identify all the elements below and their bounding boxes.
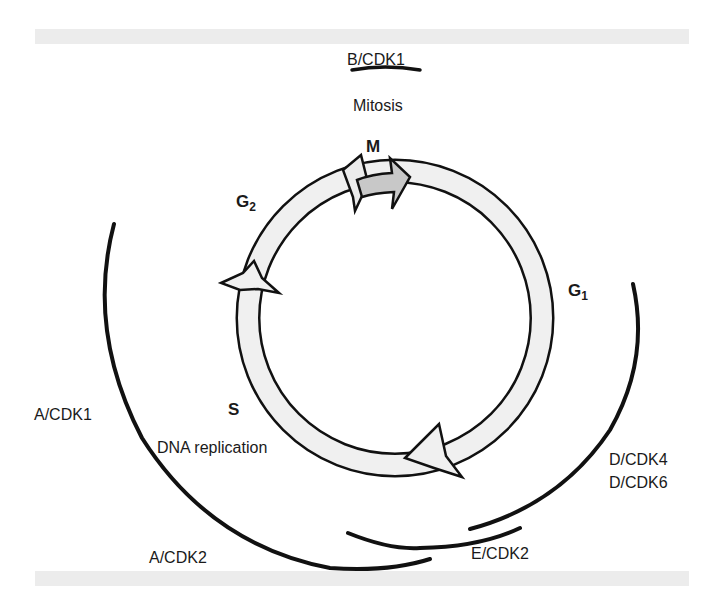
label-phase-g1: G1 <box>568 282 588 302</box>
label-phase-s: S <box>228 401 239 418</box>
label-phase-m: M <box>366 138 380 155</box>
label-d-cdk4: D/CDK4 <box>609 452 668 468</box>
cell-cycle-diagram <box>0 0 704 602</box>
label-a-cdk1: A/CDK1 <box>34 407 92 423</box>
label-dna-replication: DNA replication <box>157 440 267 456</box>
label-mitosis: Mitosis <box>353 98 403 114</box>
label-e-cdk2: E/CDK2 <box>471 546 529 562</box>
label-d-cdk6: D/CDK6 <box>609 475 668 491</box>
label-a-cdk2: A/CDK2 <box>149 550 207 566</box>
label-phase-g2: G2 <box>236 193 256 213</box>
label-b-cdk1: B/CDK1 <box>347 52 405 68</box>
cell-cycle-ring <box>248 171 542 465</box>
